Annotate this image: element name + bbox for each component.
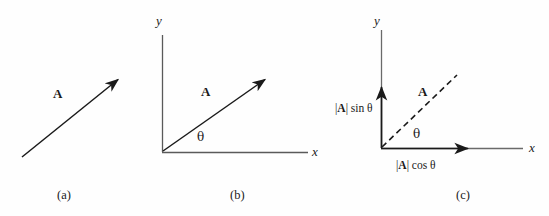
y-component-label: |A| sin θ <box>335 103 373 115</box>
angle-label-b: θ <box>197 131 204 143</box>
vector-label-c: A <box>418 85 427 98</box>
vector-a-arrow <box>22 80 118 158</box>
panel-a-drawing <box>0 0 150 216</box>
vector-label-b: A <box>201 85 210 98</box>
x-axis-label-b: x <box>312 145 318 158</box>
caption-b: (b) <box>230 189 245 202</box>
x-component-label: |A| cos θ <box>396 160 436 172</box>
y-component-label-vector: A <box>337 102 345 114</box>
vector-a-arrow-b <box>163 80 265 152</box>
x-component-label-vector: A <box>398 159 406 171</box>
x-component-label-suffix: | cos θ <box>407 159 436 171</box>
caption-a: (a) <box>57 189 71 202</box>
figure-root: A (a) y x A θ (b) <box>0 0 549 216</box>
panel-a: A (a) <box>0 0 150 216</box>
angle-label-c: θ <box>413 128 420 140</box>
y-component-label-suffix: | sin θ <box>346 102 373 114</box>
y-axis-label-c: y <box>374 14 380 27</box>
vector-label-a: A <box>53 87 62 100</box>
x-axis-label-c: x <box>529 141 535 154</box>
panel-c: y x A θ |A| sin θ |A| cos θ (c) <box>335 0 549 216</box>
caption-c: (c) <box>456 189 470 202</box>
y-axis-label-b: y <box>156 14 162 27</box>
panel-b-drawing <box>150 0 335 216</box>
panel-b: y x A θ (b) <box>150 0 335 216</box>
